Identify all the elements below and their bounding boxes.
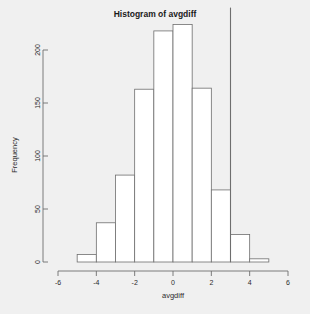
x-tick-label: 2 xyxy=(209,279,213,286)
chart-title: Histogram of avgdiff xyxy=(114,9,197,19)
histogram-svg: Histogram of avgdiff 050100150200 -6-4-2… xyxy=(0,0,310,314)
y-axis-label: Frequency xyxy=(10,137,19,173)
x-tick-label: 0 xyxy=(171,279,175,286)
histogram-plot: Histogram of avgdiff 050100150200 -6-4-2… xyxy=(0,0,310,314)
histogram-bar xyxy=(116,175,135,262)
y-tick-label: 200 xyxy=(34,44,41,56)
histogram-bar xyxy=(250,259,269,262)
x-axis-label: avgdiff xyxy=(162,291,185,300)
x-tick-label: 4 xyxy=(248,279,252,286)
y-tick-label: 100 xyxy=(34,150,41,162)
x-tick-label: -4 xyxy=(93,279,99,286)
y-tick-label: 50 xyxy=(34,205,41,213)
histogram-bar xyxy=(96,223,115,262)
histogram-bar xyxy=(135,89,154,262)
histogram-bar xyxy=(211,190,230,262)
y-tick-label: 150 xyxy=(34,97,41,109)
x-tick-label: 6 xyxy=(286,279,290,286)
histogram-bar xyxy=(77,255,96,262)
histogram-bar xyxy=(154,31,173,262)
y-tick-label: 0 xyxy=(34,260,41,264)
x-tick-label: -6 xyxy=(55,279,61,286)
histogram-bar xyxy=(231,234,250,262)
x-tick-label: -2 xyxy=(132,279,138,286)
histogram-bar xyxy=(173,25,192,262)
histogram-bar xyxy=(192,88,211,262)
